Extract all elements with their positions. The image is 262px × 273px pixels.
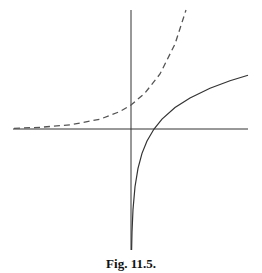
solid-logarithm-curve — [132, 75, 248, 250]
dashed-exponential-curve — [14, 10, 186, 128]
figure — [0, 0, 262, 273]
figure-caption: Fig. 11.5. — [0, 256, 262, 272]
